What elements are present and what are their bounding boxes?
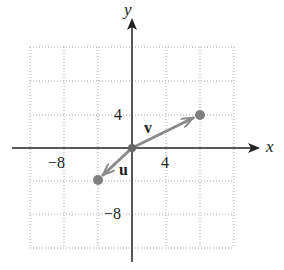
vector-chart xyxy=(0,0,284,270)
vector-u-label: u xyxy=(119,162,128,178)
vector-v xyxy=(132,118,193,148)
x-tick-neg8: −8 xyxy=(48,155,65,171)
y-tick-4: 4 xyxy=(114,107,122,123)
origin-point xyxy=(128,144,136,152)
point-v-end xyxy=(195,110,205,120)
vector-v-label: v xyxy=(144,120,152,136)
x-tick-4: 4 xyxy=(161,155,169,171)
y-axis-label: y xyxy=(124,1,132,18)
y-tick-neg8: −8 xyxy=(104,206,121,222)
point-u-end xyxy=(93,175,103,185)
x-axis-label: x xyxy=(266,138,274,155)
